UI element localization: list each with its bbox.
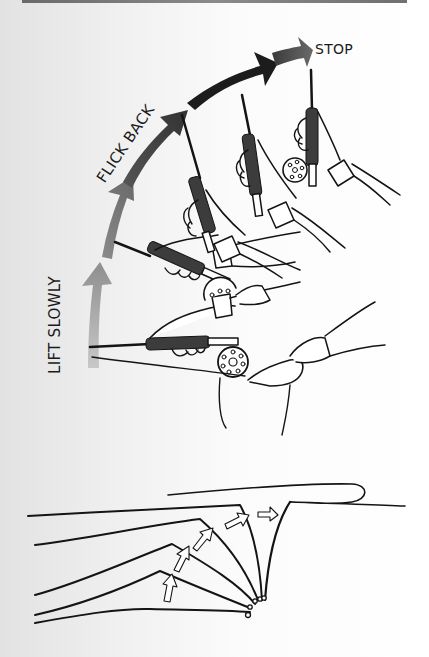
rod-tip-diagram — [28, 484, 405, 623]
rod-curve-1 — [35, 609, 250, 623]
arrow-segment-lift-1 — [82, 262, 112, 368]
line-loop — [168, 484, 405, 506]
label-stop: STOP — [315, 41, 353, 57]
rod-position-4 — [237, 95, 345, 252]
rod-curve-3 — [35, 544, 255, 604]
motion-arrow-icon — [193, 528, 213, 551]
rod-curve-4 — [35, 519, 258, 600]
arrow-segment-flick-2 — [187, 52, 278, 110]
label-lift-slowly: LIFT SLOWLY — [46, 276, 64, 374]
casting-illustration — [0, 0, 429, 657]
arrow-segment-stop — [272, 37, 313, 67]
rod-position-3 — [182, 115, 300, 278]
rod-position-5 — [295, 70, 400, 205]
motion-arrow-icon — [258, 507, 278, 521]
rod-tip-rings — [246, 596, 267, 618]
rod-position-1 — [90, 282, 385, 435]
motion-arrow-icon — [225, 513, 249, 529]
